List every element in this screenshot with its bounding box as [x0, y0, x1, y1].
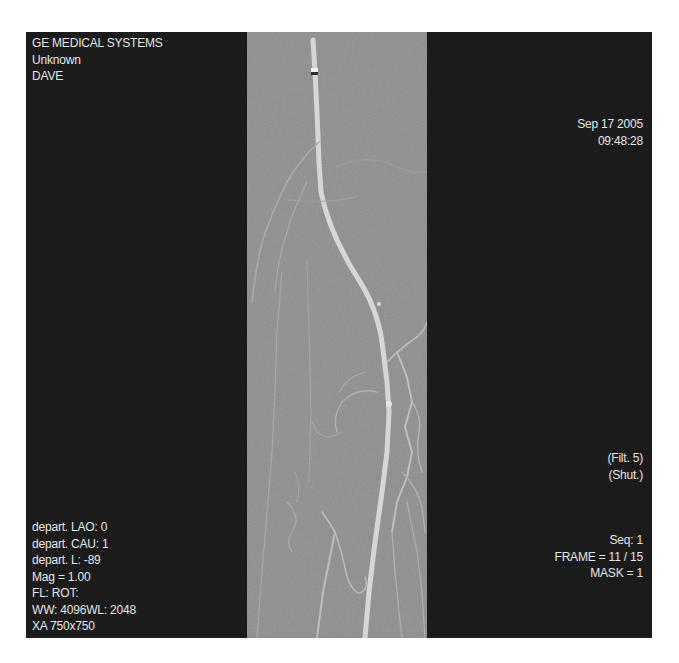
angiogram-image[interactable]	[247, 32, 427, 638]
study-date-label: Sep 17 2005	[577, 116, 643, 133]
bottom-right-overlay: Seq: 1 FRAME = 11 / 15 MASK = 1	[555, 532, 643, 582]
bottom-left-overlay: depart. LAO: 0 depart. CAU: 1 depart. L:…	[32, 519, 136, 635]
study-time-label: 09:48:28	[577, 133, 643, 150]
dicom-viewer: GE MEDICAL SYSTEMS Unknown DAVE depart. …	[26, 32, 652, 638]
mask-label: MASK = 1	[555, 565, 643, 582]
middle-right-overlay: (Filt. 5) (Shut.)	[607, 450, 643, 483]
right-overlay-panel: Sep 17 2005 09:48:28 (Filt. 5) (Shut.) S…	[427, 32, 652, 638]
frame-counter-label: FRAME = 11 / 15	[555, 549, 643, 566]
manufacturer-label: GE MEDICAL SYSTEMS	[32, 35, 163, 52]
cau-angle-label: depart. CAU: 1	[32, 536, 136, 553]
l-angle-label: depart. L: -89	[32, 552, 136, 569]
magnification-label: Mag = 1.00	[32, 569, 136, 586]
top-right-overlay: Sep 17 2005 09:48:28	[577, 116, 643, 149]
vessel-tree-graphic	[247, 32, 427, 638]
lao-angle-label: depart. LAO: 0	[32, 519, 136, 536]
window-level-label: WW: 4096WL: 2048	[32, 602, 136, 619]
sequence-label: Seq: 1	[555, 532, 643, 549]
top-left-overlay: GE MEDICAL SYSTEMS Unknown DAVE	[32, 35, 163, 85]
shutter-label: (Shut.)	[607, 467, 643, 484]
patient-id-label: Unknown	[32, 52, 163, 69]
filter-label: (Filt. 5)	[607, 450, 643, 467]
catheter-marker	[311, 68, 318, 72]
matrix-size-label: XA 750x750	[32, 618, 136, 635]
patient-name-label: DAVE	[32, 68, 163, 85]
fl-rot-label: FL: ROT:	[32, 585, 136, 602]
left-overlay-panel: GE MEDICAL SYSTEMS Unknown DAVE depart. …	[26, 32, 247, 638]
